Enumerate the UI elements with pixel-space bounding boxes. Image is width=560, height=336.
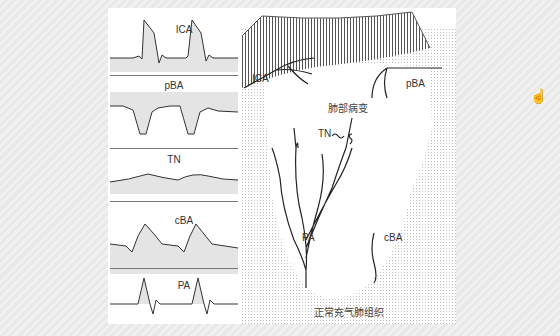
normal-lung-label: 正常充气肺组织 <box>314 304 384 319</box>
separator <box>110 201 238 202</box>
lesion-label: 肺部病变 <box>328 100 368 115</box>
ica-label: ICA <box>118 24 250 35</box>
waveform-column: ICA pBA TN cBA PA <box>108 8 240 324</box>
separator <box>110 75 238 76</box>
ica-waveform <box>108 8 240 74</box>
diagram-tn-label: TN <box>318 128 331 139</box>
hand-cursor-icon: ☝ <box>530 88 547 104</box>
separator <box>110 148 238 149</box>
lung-diagram-graphic <box>242 8 456 324</box>
separator <box>110 268 238 269</box>
figure-panel: ICA pBA TN cBA PA <box>108 8 456 324</box>
diagram-cba-label: cBA <box>384 232 402 243</box>
diagram-ica-label: ICA <box>252 73 269 84</box>
tn-label: TN <box>108 154 240 165</box>
lung-diagram: ICA pBA 肺部病变 TN PA cBA 正常充气肺组织 <box>242 8 456 324</box>
cba-waveform <box>108 204 240 278</box>
diagram-pa-label: PA <box>302 232 315 243</box>
pba-waveform <box>108 86 240 146</box>
pa-waveform <box>108 270 240 324</box>
tn-waveform <box>108 168 240 208</box>
diagram-pba-label: pBA <box>406 78 425 89</box>
